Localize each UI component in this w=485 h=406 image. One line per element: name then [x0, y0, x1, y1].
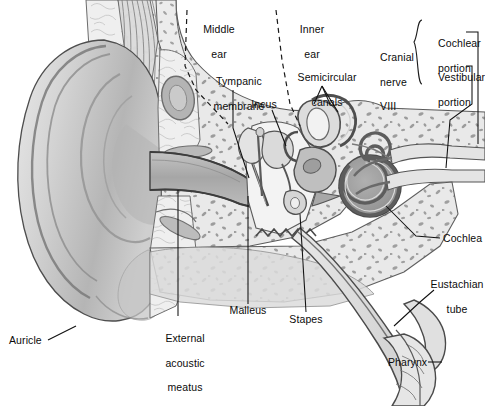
label-cranial-line3: VIII	[380, 100, 396, 112]
label-eustachian-line2: tube	[447, 303, 468, 315]
label-semicircular-canals: Semicircular canals	[278, 59, 364, 120]
label-cochlea: Cochlea	[443, 232, 482, 244]
label-cranial-line1: Cranial	[380, 51, 414, 63]
label-eam-line2: acoustic	[165, 357, 204, 369]
label-vestibular-line2: portion	[438, 96, 471, 108]
label-eam-line3: meatus	[168, 381, 203, 393]
auricle	[18, 40, 164, 321]
label-auricle: Auricle	[9, 334, 42, 346]
label-inner-ear-line1: Inner	[300, 23, 324, 35]
label-semicircular-line1: Semicircular	[298, 71, 357, 83]
label-external-acoustic-meatus: External acoustic meatus	[148, 320, 210, 405]
label-incus: Incus	[242, 98, 286, 110]
label-stapes: Stapes	[283, 313, 329, 325]
label-vestibular-portion: Vestibular portion	[426, 59, 485, 120]
label-eustachian-line1: Eustachian	[431, 278, 484, 290]
label-inner-ear-line2: ear	[304, 48, 319, 60]
label-cochlear-line1: Cochlear	[438, 37, 481, 49]
label-cranial-line2: nerve	[380, 76, 407, 88]
label-middle-ear-line1: Middle	[203, 23, 235, 35]
label-cranial-nerve: Cranial nerve VIII	[368, 39, 414, 124]
ear-anatomy-figure: Middle ear Inner ear Tympanic membrane S…	[0, 0, 485, 406]
label-semicircular-line2: canals	[312, 96, 343, 108]
cranial-nerve-brace	[414, 20, 422, 84]
label-vestibular-line1: Vestibular	[438, 71, 485, 83]
label-tympanic-membrane: Tympanic membrane	[194, 63, 272, 124]
label-eam-line1: External	[165, 332, 204, 344]
label-eustachian-tube: Eustachian tube	[418, 266, 484, 327]
label-middle-ear-line2: ear	[211, 48, 226, 60]
stapes-bone	[284, 190, 307, 214]
label-pharynx: Pharynx	[388, 356, 427, 368]
label-malleus: Malleus	[220, 304, 276, 316]
label-tympanic-line1: Tympanic	[216, 75, 262, 87]
